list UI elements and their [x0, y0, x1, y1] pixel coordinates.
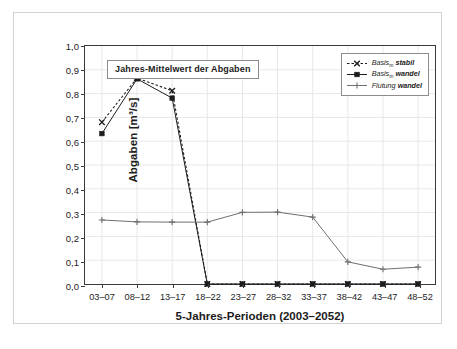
legend-label: Basism wandel	[372, 69, 420, 79]
x-tick-label: 23–27	[231, 292, 257, 302]
x-tick-mark	[243, 284, 244, 288]
x-tick-mark	[349, 284, 350, 288]
x-tick-mark	[208, 284, 209, 288]
y-tick-mark	[81, 70, 85, 71]
y-tick-mark	[81, 142, 85, 143]
legend-item: Flutung wandel	[346, 80, 422, 91]
y-tick-label: 0,8	[66, 89, 79, 100]
y-tick-label: 0,2	[66, 233, 79, 244]
chart-legend: Basism stabilBasism wandelFlutung wandel	[341, 53, 429, 96]
y-tick-label: 0,6	[66, 137, 79, 148]
x-tick-label: 38–42	[337, 292, 363, 302]
y-tick-label: 0,9	[66, 65, 79, 76]
y-tick-label: 0,4	[66, 185, 79, 196]
y-tick-label: 0,0	[66, 281, 79, 292]
x-tick-mark	[314, 284, 315, 288]
legend-label: Basism stabil	[372, 58, 415, 68]
y-tick-mark	[81, 46, 85, 47]
legend-item: Basism wandel	[346, 69, 422, 80]
figure-frame: Abgaben [m³/s] 0,00,10,20,30,40,50,60,70…	[13, 12, 442, 324]
x-tick-mark	[279, 284, 280, 288]
legend-label: Flutung wandel	[372, 81, 422, 90]
y-tick-mark	[81, 262, 85, 263]
x-tick-label: 33–37	[301, 292, 327, 302]
annotation-label: Jahres-Mittelwert der Abgaben	[107, 60, 259, 79]
y-axis-title: Abgaben [m³/s]	[127, 60, 139, 220]
x-tick-label: 48–52	[407, 292, 433, 302]
y-tick-mark	[81, 190, 85, 191]
legend-swatch-square-icon	[346, 69, 368, 80]
x-tick-mark	[137, 284, 138, 288]
y-tick-label: 0,3	[66, 209, 79, 220]
x-axis-title: 5-Jahres-Perioden (2003–2052)	[85, 310, 435, 322]
y-tick-mark	[81, 238, 85, 239]
y-tick-label: 1,0	[66, 41, 79, 52]
y-tick-label: 0,5	[66, 161, 79, 172]
x-tick-label: 43–47	[372, 292, 398, 302]
legend-swatch-x-icon	[346, 58, 368, 69]
y-tick-label: 0,7	[66, 113, 79, 124]
x-tick-label: 13–17	[160, 292, 186, 302]
x-tick-label: 18–22	[195, 292, 221, 302]
y-tick-mark	[81, 94, 85, 95]
y-tick-label: 0,1	[66, 257, 79, 268]
x-tick-mark	[385, 284, 386, 288]
plot-area: Abgaben [m³/s] 0,00,10,20,30,40,50,60,70…	[84, 45, 436, 285]
y-tick-mark	[81, 166, 85, 167]
legend-item: Basism stabil	[346, 58, 422, 69]
y-tick-mark	[81, 118, 85, 119]
x-tick-label: 03–07	[89, 292, 115, 302]
y-tick-mark	[81, 286, 85, 287]
legend-swatch-plus-icon	[346, 80, 368, 91]
y-tick-mark	[81, 214, 85, 215]
x-tick-label: 08–12	[125, 292, 151, 302]
x-tick-mark	[173, 284, 174, 288]
x-tick-mark	[420, 284, 421, 288]
x-tick-mark	[102, 284, 103, 288]
x-tick-label: 28–32	[266, 292, 292, 302]
